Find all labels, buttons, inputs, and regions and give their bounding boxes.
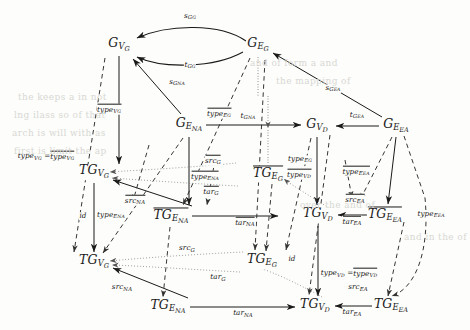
edge-label-srcna-bar: srcNA (124, 195, 145, 206)
edge-label-typeeea-right: typeEEA (417, 210, 445, 219)
edge-label-tarna-bar: tarNA (235, 217, 256, 228)
diagram-arrows (0, 0, 470, 330)
edge-label-typevd-eq: typeVD =typeVD (320, 268, 378, 279)
edge-label-srcg-bar-up: srcG (205, 155, 222, 166)
node-geg-top: GEG (246, 37, 269, 53)
edge-label-tarna-low: tarNA (233, 309, 254, 318)
node-tgeg-low: TGEG (246, 253, 278, 269)
edge-label-typeeg-bar: typeEG (206, 108, 231, 119)
node-tgvg-up: TGVG (78, 164, 110, 180)
edge-label-tgna: tGNA (240, 112, 256, 121)
node-geea: GEEA (382, 118, 410, 134)
edge-label-typeeg-small: typeEG (287, 155, 312, 164)
edge-label-sgea: sGEA (325, 84, 341, 93)
edge-label-sgg: sGG (184, 12, 197, 21)
edge-label-srcea-bar: srcEA (345, 194, 365, 205)
node-tgeea-low: TGEEA (373, 298, 409, 314)
node-tgvd-up: TGVD (302, 207, 334, 223)
edge-label-typevg-eq: typeVG =typeVG (17, 151, 75, 162)
edge-label-tgea: tGEA (349, 111, 364, 120)
node-gvg-top: GVG (107, 37, 130, 53)
node-tgena-bar: TGENA (152, 207, 189, 224)
node-tgena-low: TGENA (149, 299, 186, 315)
edge-label-typeena-small: typeENA (97, 211, 126, 220)
edge-label-srcg-low: srcG (179, 244, 196, 253)
edge-label-sgna: sGNA (169, 78, 186, 87)
node-tgvd-low: TGVD (299, 298, 331, 314)
edge-label-tarea-low: tarEA (342, 308, 362, 317)
edge-label-typeena-bar: typeENA (191, 171, 220, 182)
edge-label-srcna-low: srcNA (111, 283, 132, 292)
node-tgvg-low: TGVG (78, 254, 110, 270)
curved-arrows-top (137, 27, 246, 65)
edge-label-targ-low: tarG (210, 273, 226, 282)
edge-label-targ-bar: tarG (203, 186, 219, 197)
edge-label-id-upper: id (79, 212, 87, 220)
edge-label-typevd-bar: typeVD (286, 169, 311, 180)
node-tgeg-bar: TGEG (252, 165, 284, 182)
edge-label-srcea-low: srcEA (348, 283, 368, 292)
edge-label-typevg-bar-top: typeVG (97, 104, 122, 115)
edge-label-tgg: tGG (184, 61, 196, 70)
node-gena: GENA (175, 117, 204, 133)
edge-label-id-lower: id (288, 255, 296, 263)
edge-label-typeeea-bar: typeEEA (342, 166, 370, 177)
node-gvd: GVD (305, 118, 328, 134)
edge-label-tarea-bar: tarEA (342, 216, 362, 227)
diagram-canvas: GVGGEGGENAGVDGEEATGVGTGEGTGENATGVDTGEEAT… (0, 0, 470, 330)
node-tgeea-bar: TGEEA (367, 206, 403, 223)
